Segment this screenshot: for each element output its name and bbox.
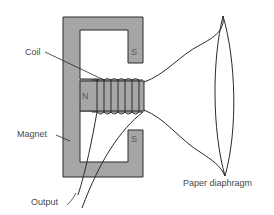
north-pole-label: N (82, 91, 89, 101)
diaphragm-cone (144, 16, 225, 176)
loudspeaker-diagram: Coil Magnet Output Paper diaphragm N S S (0, 0, 274, 215)
south-pole-top-label: S (131, 47, 137, 57)
paper-diaphragm (215, 16, 234, 176)
south-pole-bottom-label: S (131, 134, 137, 144)
output-label: Output (31, 197, 59, 207)
centre-pole (80, 81, 144, 111)
diaphragm-label: Paper diaphragm (183, 178, 252, 188)
coil-label: Coil (25, 47, 41, 57)
magnet-label: Magnet (17, 129, 48, 139)
